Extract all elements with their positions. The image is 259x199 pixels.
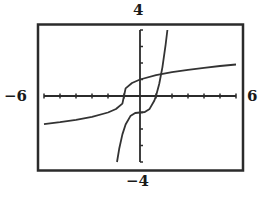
axes	[44, 30, 236, 162]
graph-window	[0, 0, 259, 199]
